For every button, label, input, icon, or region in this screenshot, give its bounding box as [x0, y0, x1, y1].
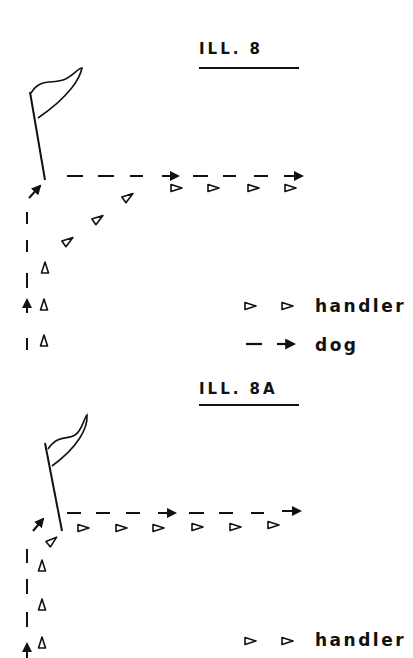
ill8-flag-icon: [30, 68, 82, 180]
ill8a-dog-path: [27, 511, 300, 658]
legend-handler-symbol-ill8a: [245, 638, 293, 645]
diagram-canvas: [0, 0, 413, 658]
legend-handler-symbol-ill8: [245, 303, 293, 310]
ill8a-handler-path: [39, 522, 280, 649]
ill8-handler-path: [41, 185, 297, 347]
ill8-dog-path: [27, 176, 302, 350]
